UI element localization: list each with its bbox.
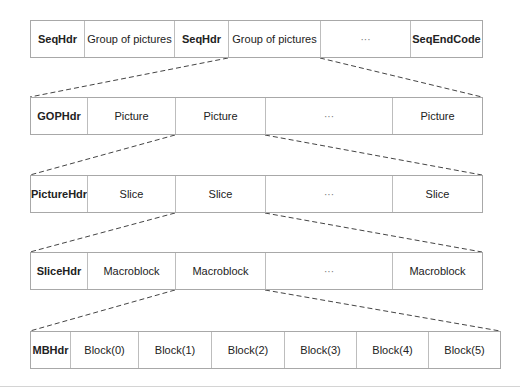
expand-line-right-2	[265, 135, 482, 175]
slice-cell: Slice	[88, 176, 176, 212]
gop-header-cell: GOPHdr	[31, 98, 88, 134]
block-cell: Block(5)	[429, 332, 500, 368]
seq-end-code-cell: SeqEndCode	[411, 21, 482, 57]
expand-line-right-1	[320, 58, 482, 97]
ellipsis-cell: ···	[266, 98, 393, 134]
ellipsis-cell: ···	[266, 253, 393, 289]
slice-header-cell: SliceHdr	[31, 253, 88, 289]
bottom-divider	[0, 386, 520, 387]
block-cell: Block(4)	[357, 332, 429, 368]
ellipsis-cell: ···	[321, 21, 411, 57]
slice-layer-row: SliceHdr Macroblock Macroblock ··· Macro…	[30, 252, 483, 290]
expand-line-left-1	[30, 58, 228, 97]
block-cell: Block(0)	[71, 332, 139, 368]
macroblock-cell: Macroblock	[88, 253, 176, 289]
expand-line-left-3	[30, 213, 175, 252]
block-cell: Block(2)	[212, 332, 285, 368]
macroblock-cell: Macroblock	[393, 253, 482, 289]
seq-header-cell: SeqHdr	[175, 21, 229, 57]
slice-cell: Slice	[176, 176, 266, 212]
macroblock-cell: Macroblock	[176, 253, 266, 289]
picture-cell: Picture	[176, 98, 266, 134]
gop-cell: Group of pictures	[85, 21, 175, 57]
expand-line-left-2	[30, 135, 175, 175]
expand-line-left-4	[30, 290, 175, 331]
macroblock-layer-row: MBHdr Block(0) Block(1) Block(2) Block(3…	[30, 331, 501, 369]
picture-cell: Picture	[393, 98, 482, 134]
mb-header-cell: MBHdr	[31, 332, 71, 368]
seq-header-cell: SeqHdr	[31, 21, 85, 57]
picture-layer-row: PictureHdr Slice Slice ··· Slice	[30, 175, 483, 213]
sequence-layer-row: SeqHdr Group of pictures SeqHdr Group of…	[30, 20, 483, 58]
gop-layer-row: GOPHdr Picture Picture ··· Picture	[30, 97, 483, 135]
expand-line-right-3	[265, 213, 482, 252]
picture-header-cell: PictureHdr	[31, 176, 88, 212]
block-cell: Block(3)	[285, 332, 357, 368]
slice-cell: Slice	[393, 176, 482, 212]
expand-line-right-4	[265, 290, 500, 331]
block-cell: Block(1)	[139, 332, 212, 368]
gop-cell: Group of pictures	[229, 21, 321, 57]
ellipsis-cell: ···	[266, 176, 393, 212]
picture-cell: Picture	[88, 98, 176, 134]
